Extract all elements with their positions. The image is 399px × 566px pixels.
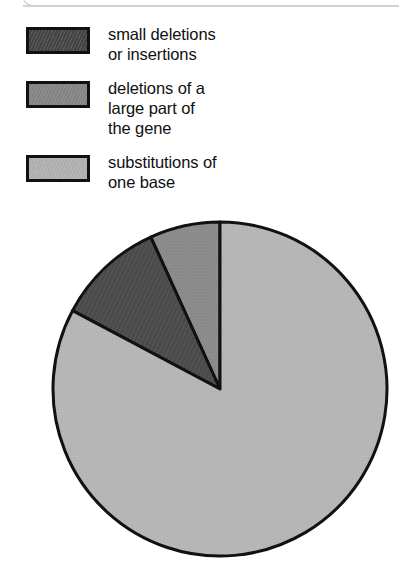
legend-label-substitutions: substitutions of one base xyxy=(108,152,216,192)
legend-label-small-deletions: small deletions or insertions xyxy=(108,24,216,64)
pie-slices xyxy=(53,222,387,556)
legend-item: small deletions or insertions xyxy=(0,24,398,64)
pie-slice xyxy=(53,222,387,556)
legend-item: substitutions of one base xyxy=(0,152,398,192)
legend-swatch-substitutions xyxy=(26,155,90,182)
legend-swatch-large-deletions xyxy=(26,81,90,108)
pie-slice xyxy=(73,237,220,389)
legend-item: deletions of a large part of the gene xyxy=(0,78,398,138)
legend-swatch-small-deletions xyxy=(26,27,90,54)
pie-slice xyxy=(151,222,220,389)
panel-top-edge xyxy=(22,0,398,6)
chart-legend: small deletions or insertions deletions … xyxy=(0,24,398,206)
legend-label-large-deletions: deletions of a large part of the gene xyxy=(108,78,205,138)
